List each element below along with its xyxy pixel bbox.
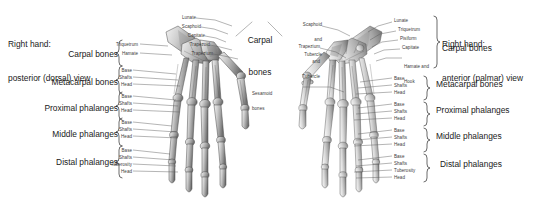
dorsal-group-label-metacarpal-bones: Metacarpal bones (4, 78, 118, 87)
dorsal-part-middle-shafts: Shafts (104, 127, 132, 132)
palmar-part-distal-shafts: Shafts (394, 161, 428, 166)
dorsal-callout-trapezium: Trapezium (170, 51, 213, 56)
dorsal-callout-scaphoid: Scaphoid (162, 24, 201, 29)
dorsal-part-metacarpal-head: Head (104, 82, 132, 87)
dorsal-part-metacarpal-base: Base (104, 68, 132, 73)
palmar-part-leaders (354, 78, 392, 178)
palmar-callout-trapezium-line1: Trapezium (278, 44, 320, 49)
dorsal-part-middle-base: Base (104, 120, 132, 125)
palmar-callout-sesamoid-line1: Sesamoid (252, 91, 300, 96)
dorsal-part-proximal-base: Base (104, 94, 132, 99)
dorsal-part-distal-base: Base (96, 148, 132, 153)
palmar-part-middle-shafts: Shafts (394, 135, 420, 140)
palmar-part-distal-base: Base (394, 154, 428, 159)
palmar-right-leaders (368, 22, 402, 61)
dorsal-group-label-proximal-phalanges: Proximal phalanges (4, 104, 118, 113)
palmar-part-distal-head: Head (394, 175, 428, 180)
dorsal-part-middle-head: Head (104, 134, 132, 139)
palmar-callout-triquetrum: Triquetrum (398, 27, 442, 32)
palmar-part-middle-base: Base (394, 128, 420, 133)
palmar-group-label-distal-phalanges: Distal phalanges (440, 160, 502, 169)
palmar-callout-sesamoid-line2: bones (252, 106, 300, 111)
dorsal-part-hamate: Hamate (100, 51, 138, 56)
dorsal-part-leaders (133, 44, 180, 172)
palmar-group-label-middle-phalanges: Middle phalanges (436, 132, 502, 141)
palmar-part-metacarpal-shafts: Shafts (394, 83, 420, 88)
palmar-part-middle-head: Head (394, 142, 420, 147)
dorsal-part-proximal-shafts: Shafts (104, 101, 132, 106)
palmar-part-proximal-head: Head (394, 116, 420, 121)
palmar-part-proximal-shafts: Shafts (394, 109, 420, 114)
palmar-part-proximal-base: Base (394, 102, 420, 107)
dorsal-part-distal-tuberosity: Tuberosity (96, 162, 132, 167)
dorsal-callout-capitate: Capitate (166, 33, 205, 38)
dorsal-part-triquetrum: Triquetrum (100, 42, 138, 47)
palmar-title: Right hand: anterior (palmar) view (442, 16, 523, 107)
palmar-callout-capitate: Capitate (402, 45, 446, 50)
dorsal-callout-trapezoid: Trapezoid (168, 42, 210, 47)
palmar-group-label-carpal-bones: Carpal bones (442, 44, 492, 53)
palmar-callout-pisiform: Pisiform (400, 36, 444, 41)
dorsal-part-distal-shafts: Shafts (96, 155, 132, 160)
palmar-part-metacarpal-base: Base (394, 76, 420, 81)
palmar-group-label-proximal-phalanges: Proximal phalanges (436, 106, 510, 115)
hand-skeleton-figure: Right hand: posterior (dorsal) view Carp… (0, 0, 545, 205)
palmar-part-metacarpal-head: Head (394, 90, 420, 95)
dorsal-title: Right hand: posterior (dorsal) view (8, 16, 90, 107)
dorsal-part-metacarpal-shafts: Shafts (104, 75, 132, 80)
dorsal-group-label-middle-phalanges: Middle phalanges (4, 130, 118, 139)
palmar-callout-scaphoid-line1: Scaphoid (284, 22, 322, 27)
center-carpal-bones-line2: bones (238, 67, 282, 78)
palmar-callout-lunate: Lunate (394, 18, 438, 23)
palmar-part-distal-tuberosity: Tuberosity (394, 168, 428, 173)
palmar-group-label-metacarpal-bones: Metacarpal bones (436, 80, 503, 89)
palmar-callout-sesamoid-bones: Sesamoid bones (252, 81, 300, 121)
dorsal-callout-lunate: Lunate (162, 15, 196, 20)
palmar-callout-trapezium-line3: Tubercle (278, 74, 320, 79)
dorsal-part-proximal-head: Head (104, 108, 132, 113)
center-carpal-bones-line1: Carpal (238, 35, 282, 46)
palmar-callout-trapezium-line2: and (278, 59, 320, 64)
dorsal-part-distal-head: Head (96, 169, 132, 174)
